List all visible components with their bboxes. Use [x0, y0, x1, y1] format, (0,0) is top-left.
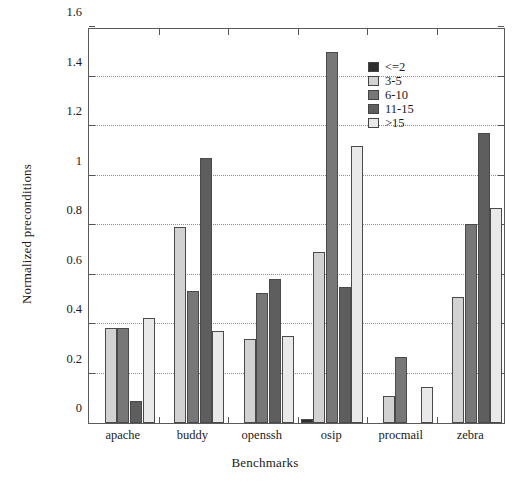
y-axis-title: Normalized preconditions: [19, 124, 35, 344]
y-tick-label: 1: [76, 153, 82, 168]
x-tick-mark: [298, 29, 299, 35]
x-tick-mark: [367, 417, 368, 423]
y-tick-mark: [89, 373, 95, 374]
x-tick-mark: [367, 29, 368, 35]
x-tick-mark: [159, 29, 160, 35]
bar: [244, 339, 256, 423]
bar: [282, 336, 294, 423]
y-tick-mark: [89, 26, 95, 27]
gridline: [89, 274, 504, 275]
y-tick-mark: [89, 125, 95, 126]
y-tick-mark: [89, 323, 95, 324]
bar-chart-figure: Normalized preconditions 00.20.40.60.811…: [0, 0, 530, 490]
legend-swatch-icon: [368, 90, 379, 100]
x-group-label: apache: [105, 428, 140, 443]
bar: [351, 146, 363, 423]
bar: [452, 297, 464, 423]
legend-label: 3-5: [385, 75, 402, 87]
bar: [395, 357, 407, 423]
x-tick-mark: [437, 417, 438, 423]
legend-swatch-icon: [368, 104, 379, 114]
bar: [478, 133, 490, 423]
legend-item: 6-10: [368, 88, 414, 101]
bar: [339, 287, 351, 423]
legend-swatch-icon: [368, 76, 379, 86]
gridline: [89, 175, 504, 176]
legend-item: 11-15: [368, 102, 414, 115]
y-tick-label: 1.4: [66, 54, 82, 69]
bar: [200, 158, 212, 423]
x-tick-mark: [228, 417, 229, 423]
bar: [256, 293, 268, 423]
bar: [465, 224, 477, 423]
gridline: [89, 76, 504, 77]
bar: [105, 328, 117, 423]
x-group-label: zebra: [457, 428, 484, 443]
y-tick-label: 0.6: [66, 252, 82, 267]
legend-swatch-icon: [368, 118, 379, 128]
x-group-label: procmail: [379, 428, 423, 443]
bar: [269, 279, 281, 423]
y-tick-label: 1.2: [66, 104, 82, 119]
x-tick-mark: [437, 29, 438, 35]
legend-label: 11-15: [385, 103, 414, 115]
legend-label: 6-10: [385, 89, 408, 101]
y-tick-mark: [498, 125, 504, 126]
x-group-label: openssh: [242, 428, 282, 443]
bar: [421, 387, 433, 423]
y-tick-mark: [498, 26, 504, 27]
legend-label: <=2: [385, 61, 405, 73]
chart-legend: <=23-56-1011-15>15: [368, 60, 414, 129]
x-group-label: buddy: [177, 428, 208, 443]
bar: [117, 328, 129, 423]
y-tick-mark: [89, 274, 95, 275]
bar: [490, 208, 502, 423]
legend-item: <=2: [368, 60, 414, 73]
bar: [143, 318, 155, 423]
bar: [326, 52, 338, 423]
plot-area: 00.20.40.60.811.21.41.6: [88, 28, 505, 424]
legend-item: 3-5: [368, 74, 414, 87]
y-tick-label: 0: [76, 401, 82, 416]
legend-swatch-icon: [368, 62, 379, 72]
y-tick-mark: [89, 175, 95, 176]
y-tick-mark: [498, 175, 504, 176]
legend-label: >15: [385, 117, 405, 129]
bar: [212, 331, 224, 423]
legend-item: >15: [368, 116, 414, 129]
x-tick-mark: [298, 417, 299, 423]
y-tick-label: 1.6: [66, 5, 82, 20]
y-tick-label: 0.8: [66, 203, 82, 218]
bar: [174, 227, 186, 423]
x-tick-mark: [159, 417, 160, 423]
bar: [383, 396, 395, 423]
y-tick-mark: [498, 76, 504, 77]
x-group-label: osip: [321, 428, 342, 443]
gridline: [89, 125, 504, 126]
y-tick-label: 0.2: [66, 351, 82, 366]
y-tick-mark: [89, 76, 95, 77]
bar: [187, 291, 199, 423]
x-tick-mark: [228, 29, 229, 35]
bar: [301, 419, 313, 423]
bar: [130, 401, 142, 423]
y-tick-label: 0.4: [66, 302, 82, 317]
x-axis-title: Benchmarks: [0, 455, 530, 471]
bar: [313, 252, 325, 423]
y-tick-mark: [89, 224, 95, 225]
gridline: [89, 224, 504, 225]
